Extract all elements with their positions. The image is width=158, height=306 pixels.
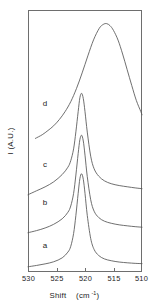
x-tick-label-0: 530	[22, 274, 35, 283]
spectrum-curve-b	[28, 135, 142, 232]
x-axis-tick-labels: 530 525 520 515 510	[22, 274, 148, 283]
x-tick-label-1: 525	[51, 274, 64, 283]
x-axis-title-main: Shift	[49, 291, 67, 300]
curve-label-d: d	[43, 99, 47, 108]
curve-label-b: b	[43, 198, 48, 207]
spectrum-curve-a	[28, 174, 142, 267]
raman-spectra-figure: 530 525 520 515 510 Shift (cm -1 ) I (A.…	[0, 0, 158, 306]
y-axis-title: I (A.U.)	[6, 127, 15, 154]
spectrum-curve-d	[35, 24, 142, 139]
curve-label-c: c	[43, 160, 47, 169]
chart-canvas: 530 525 520 515 510 Shift (cm -1 ) I (A.…	[0, 0, 158, 306]
plot-frame	[29, 11, 142, 272]
x-tick-label-4: 510	[135, 274, 148, 283]
x-axis-title-unit-close: )	[97, 291, 100, 300]
x-axis-ticks	[29, 268, 142, 272]
curve-label-a: a	[43, 241, 48, 250]
spectra-curve-group	[28, 24, 142, 267]
x-axis-title: Shift (cm -1 )	[49, 290, 99, 301]
spectrum-curve-c	[28, 93, 142, 194]
x-tick-label-3: 515	[108, 274, 121, 283]
x-tick-label-2: 520	[79, 274, 92, 283]
x-axis-title-unit-open: (cm	[76, 291, 90, 300]
